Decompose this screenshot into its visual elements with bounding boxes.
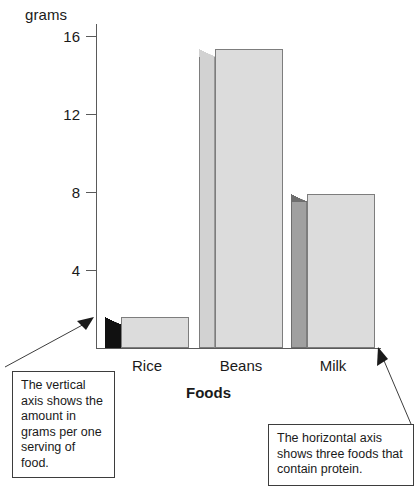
bar-beans <box>199 42 283 348</box>
callout-horizontal-axis: The horizontal axis shows three foods th… <box>268 424 414 486</box>
bar-milk-front <box>307 194 375 348</box>
y-tick-label-4: 4 <box>42 263 80 278</box>
x-axis-line <box>96 348 381 349</box>
bar-milk-top <box>291 194 308 202</box>
y-tick-label-8: 8 <box>42 185 80 200</box>
y-tick-mark-12 <box>86 114 97 115</box>
bar-milk-side <box>291 194 307 348</box>
bar-beans-front <box>215 49 283 348</box>
y-tick-mark-16 <box>86 36 97 37</box>
y-tick-mark-8 <box>86 192 97 193</box>
x-category-label-beans: Beans <box>199 357 283 374</box>
y-tick-mark-4 <box>86 270 97 271</box>
y-axis-title: grams <box>25 6 67 23</box>
vertical-callout-pointer <box>0 300 130 380</box>
bar-beans-top <box>199 49 216 57</box>
bar-chart: grams 16 12 8 4 Rice Beans Milk Foods <box>0 0 417 499</box>
y-tick-label-16: 16 <box>42 29 80 44</box>
y-tick-label-12: 12 <box>42 107 80 122</box>
bar-rice-front <box>121 317 189 348</box>
bar-milk <box>291 187 375 348</box>
horizontal-callout-pointer <box>355 340 417 430</box>
callout-vertical-axis: The vertical axis shows the amount in gr… <box>12 371 115 478</box>
bar-beans-side <box>199 49 215 348</box>
